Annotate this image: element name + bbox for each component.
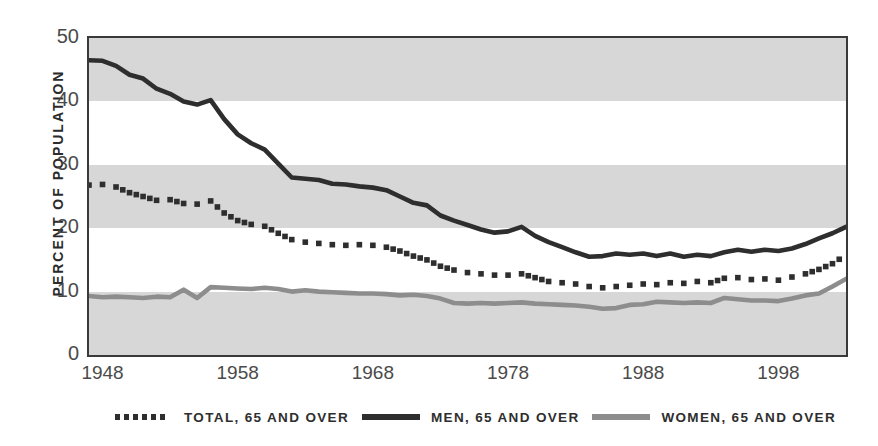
- legend-swatch-solid-icon: [362, 414, 420, 420]
- x-tick-label: 1958: [198, 362, 278, 384]
- series-line: [89, 60, 846, 257]
- legend-label: TOTAL, 65 AND OVER: [184, 410, 349, 425]
- plot-area: [87, 36, 848, 357]
- legend-swatch-solid-icon: [592, 414, 650, 420]
- y-tick-label: 30: [35, 152, 79, 175]
- legend-label: MEN, 65 AND OVER: [431, 410, 580, 425]
- x-tick-label: 1968: [333, 362, 413, 384]
- x-tick-label: 1988: [603, 362, 683, 384]
- y-tick-label: 40: [35, 88, 79, 111]
- legend-item[interactable]: TOTAL, 65 AND OVER: [115, 410, 349, 425]
- chart-figure: PERCENT OF POPULATION 50403020100 194819…: [0, 0, 878, 446]
- y-tick-label: 20: [35, 215, 79, 238]
- chart-legend: TOTAL, 65 AND OVERMEN, 65 AND OVERWOMEN,…: [87, 400, 848, 434]
- legend-item[interactable]: MEN, 65 AND OVER: [362, 410, 580, 425]
- x-tick-label: 1948: [63, 362, 143, 384]
- y-tick-label: 50: [35, 25, 79, 48]
- x-tick-label: 1998: [738, 362, 818, 384]
- x-tick-label: 1978: [468, 362, 548, 384]
- series-line: [89, 182, 842, 291]
- y-tick-label: 10: [35, 279, 79, 302]
- legend-swatch-dotted-icon: [115, 414, 173, 420]
- series-lines: [89, 38, 846, 355]
- legend-item[interactable]: WOMEN, 65 AND OVER: [592, 410, 836, 425]
- series-line: [89, 279, 846, 309]
- legend-label: WOMEN, 65 AND OVER: [661, 410, 836, 425]
